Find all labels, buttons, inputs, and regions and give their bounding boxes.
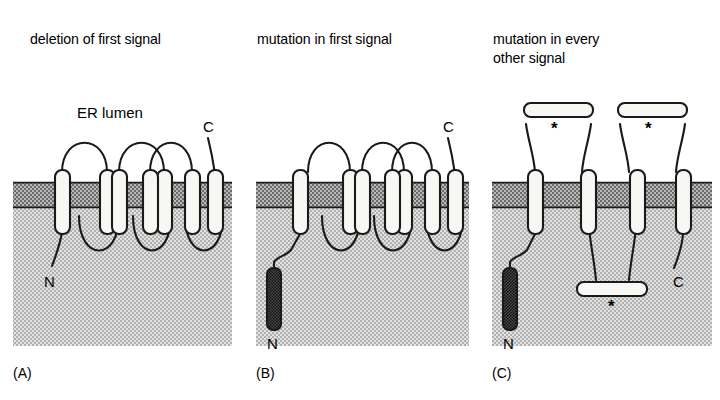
panel-a-title: deletion of first signal xyxy=(30,31,161,47)
panel-a-helix-3 xyxy=(112,170,127,234)
panel-b-label: (B) xyxy=(256,365,275,381)
panel-c-mutated-signal-segment xyxy=(503,268,517,330)
panel-c-lumenal-helix-1 xyxy=(524,103,593,117)
panel-c-helix-4 xyxy=(676,170,691,234)
panel-c-c-terminus-label: C xyxy=(673,273,684,290)
panel-a-c-terminus-label: C xyxy=(203,118,214,135)
panel-a-helix-4 xyxy=(157,170,172,234)
panel-a-label: (A) xyxy=(13,365,32,381)
panel-c-lumenal-helix-2 xyxy=(618,103,687,117)
panel-b-title: mutation in first signal xyxy=(257,31,392,47)
panel-c-star-1: * xyxy=(551,119,558,138)
panel-b-helix-7 xyxy=(448,170,463,234)
panel-c-helix-3 xyxy=(630,170,645,234)
panel-b-helix-5 xyxy=(385,170,400,234)
panel-c-n-terminus-label: N xyxy=(503,335,514,352)
panel-a-er-lumen-label: ER lumen xyxy=(77,104,143,121)
panel-a-helix-6 xyxy=(185,170,200,234)
panel-b-helix-1 xyxy=(293,170,308,234)
panel-a-helix-5 xyxy=(143,170,158,234)
panel-b-helix-3 xyxy=(355,170,370,234)
panel-c-title-line2: other signal xyxy=(493,50,565,66)
panel-c-label: (C) xyxy=(492,365,511,381)
panel-c-cytosolic-helix-1 xyxy=(577,282,647,296)
panel-b-mutated-signal-segment xyxy=(267,268,281,330)
panel-a-helix-7 xyxy=(208,170,223,234)
panel-b-c-terminus-label: C xyxy=(443,118,454,135)
panel-a-n-terminus-label: N xyxy=(44,273,55,290)
panel-b-n-terminus-label: N xyxy=(267,335,278,352)
membrane-protein-topology-figure: deletion of first signal ER lumen xyxy=(0,0,720,400)
panel-b-helix-6 xyxy=(425,170,440,234)
panel-c-helix-2 xyxy=(581,170,596,234)
panel-c-helix-1 xyxy=(528,170,543,234)
panel-c-title-line1: mutation in every xyxy=(493,31,600,47)
panel-a-helix-1 xyxy=(55,170,70,234)
panel-c-star-2: * xyxy=(645,119,652,138)
panel-c-star-3: * xyxy=(608,297,615,316)
